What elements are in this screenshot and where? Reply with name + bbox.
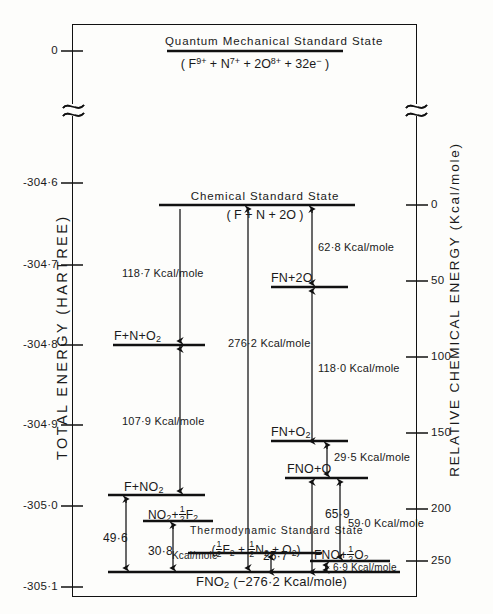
transition-label-fno-half-o2-to-fno2: 6·9 Kcal/mole [333, 563, 397, 573]
level-label-fno-o: FNO+O [287, 463, 331, 476]
quantum-standard-state-formula: ( F9+ + N7+ + 2O8+ + 32e− ) [165, 57, 345, 70]
thermodynamic-standard-state-title: Thermodynamic Standard State [190, 525, 330, 536]
transition-label-fn-o2-to-fno-o: 29·5 Kcal/mole [334, 452, 410, 463]
right-tick-label-250: 250 [431, 555, 451, 567]
transition-label-no2-half-f2-to-fno2-value: 30·8 [148, 545, 173, 557]
transition-label-fno-o-to-fno-half-o2: 59·0 Kcal/mole [348, 518, 424, 529]
transition-label-chemical-to-fno2: 276·2 Kcal/mole [228, 338, 311, 349]
level-label-fno2: FNO2 (−276·2 Kcal/mole) [196, 575, 347, 590]
left-tick-label-304-6: -304·6 [0, 177, 58, 189]
transition-label-f-no2-to-fno2: 49·6 [103, 532, 128, 544]
left-tick-label-305-0: -305·0 [0, 500, 58, 512]
right-axis-break-icon [406, 104, 427, 116]
chemical-standard-state-title: Chemical Standard State [175, 191, 355, 203]
transition-label-no2-half-f2-to-fno2-unit: Kcal/mole [172, 551, 218, 561]
transition-label-f-n-o2-to-f-no2: 107·9 Kcal/mole [122, 416, 205, 427]
left-tick-label-304-9: -304·9 [0, 419, 58, 431]
right-tick-label-0: 0 [431, 199, 438, 211]
chemical-standard-state-formula: ( F + N + 2O ) [175, 209, 355, 222]
level-label-f-n-o2: F+N+O2 [114, 330, 161, 344]
level-label-f-no2: F+NO2 [124, 481, 164, 495]
level-label-fn-2o: FN+2O [271, 272, 313, 285]
level-label-fn-o2: FN+O2 [271, 426, 311, 440]
right-axis-ticks [406, 205, 428, 561]
transition-label-thermo-to-fno2: 25·7 [263, 550, 288, 562]
transition-label-chemical-to-f-n-o2: 118·7 Kcal/mole [122, 268, 204, 279]
left-axis-break-icon [63, 104, 84, 116]
transition-label-chemical-to-fn-2o: 62·8 Kcal/mole [318, 242, 394, 253]
left-tick-label-0: 0 [0, 45, 58, 57]
left-tick-label-305-1: -305·1 [0, 581, 58, 593]
right-axis-title: RELATIVE CHEMICAL ENERGY (Kcal/mole) [448, 197, 462, 477]
left-tick-label-304-7: -304·7 [0, 259, 58, 271]
left-tick-label-304-8: -304·8 [0, 339, 58, 351]
transition-label-fno-o-to-fno2: 65·9 [325, 508, 350, 520]
level-label-no2-half-f2: NO2+12F2 [148, 505, 198, 524]
right-tick-label-50: 50 [431, 275, 444, 287]
right-tick-label-200: 200 [431, 503, 451, 515]
transition-label-fn-2o-to-fn-o2: 118·0 Kcal/mole [318, 363, 400, 374]
left-axis-title: TOTAL ENERGY (HARTREE) [55, 207, 70, 467]
quantum-standard-state-title: Quantum Mechanical Standard State [165, 36, 345, 48]
energy-level-diagram-figure: 0 -304·6 -304·7 -304·8 -304·9 -305·0 -30… [0, 0, 493, 614]
